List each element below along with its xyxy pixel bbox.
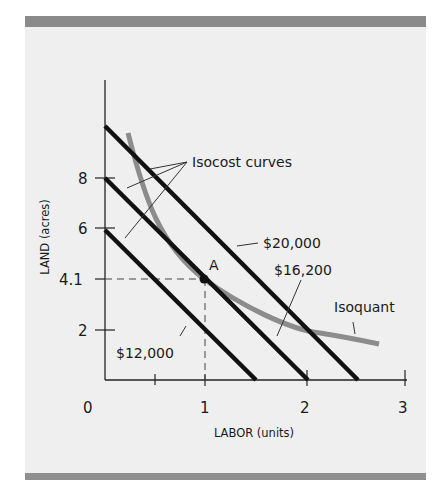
y-tick-label-2: 2	[78, 322, 88, 340]
leader-12000	[180, 326, 186, 336]
y-tick-label-6: 6	[78, 220, 88, 238]
leader-20000	[237, 243, 258, 246]
y-tick-label-4.1: 4.1	[59, 271, 83, 289]
x-tick-label-3: 3	[398, 399, 408, 417]
x-tick-label-1: 1	[200, 399, 210, 417]
y-axis-title: LAND (acres)	[38, 199, 52, 275]
cost-label-20000: $20,000	[263, 235, 321, 251]
x-axis-title: LABOR (units)	[214, 426, 294, 440]
x-tick-label-2: 2	[300, 399, 310, 417]
isocost-curves-label: Isocost curves	[192, 154, 292, 170]
leader-isoquant	[353, 322, 355, 334]
cost-label-16200: $16,200	[274, 262, 332, 278]
isoquant-label: Isoquant	[334, 299, 395, 315]
x-tick-label-0: 0	[83, 399, 93, 417]
point-a-label: A	[209, 257, 219, 273]
point-a-marker	[200, 275, 209, 284]
cost-label-12000: $12,000	[116, 345, 174, 361]
y-tick-label-8: 8	[78, 170, 88, 188]
isocost-isoquant-chart: 0 1 2 3 8 6 4.1 2 LABOR (units) LAND (ac…	[0, 0, 448, 495]
